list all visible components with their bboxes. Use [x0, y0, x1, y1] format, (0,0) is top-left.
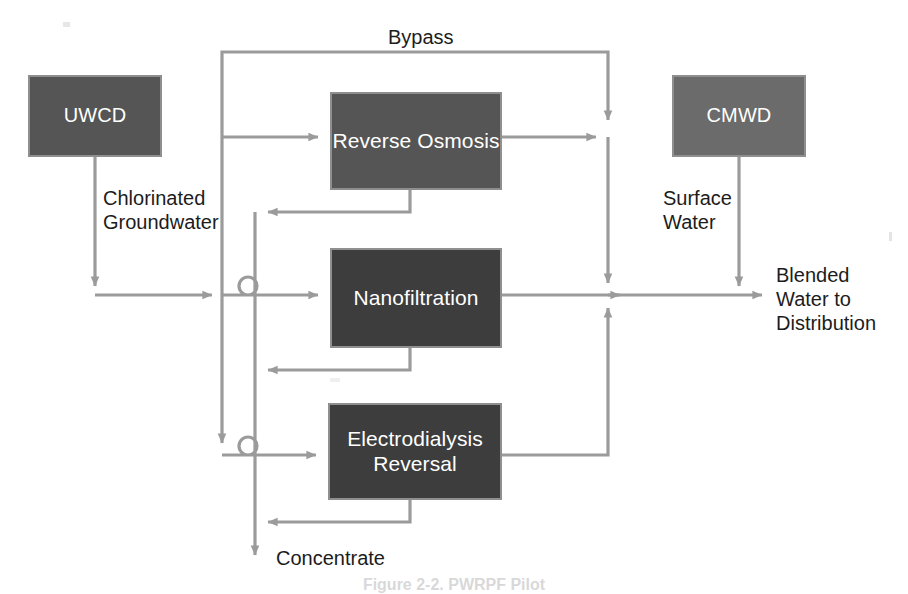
node-electrodialysis-reversal[interactable]: Electrodialysis Reversal: [328, 403, 502, 500]
wire-electrodialysis-reversal-product: [502, 308, 608, 455]
node-electrodialysis-reversal-label: Electrodialysis Reversal: [330, 427, 500, 476]
figure-caption: Figure 2-2. PWRPF Pilot: [214, 576, 694, 594]
wire-reverse-osmosis-concentrate: [268, 190, 410, 212]
label-surface-water: Surface Water: [663, 186, 732, 234]
node-cmwd[interactable]: CMWD: [672, 75, 806, 157]
node-uwcd-label: UWCD: [64, 104, 127, 127]
scan-speck: [330, 378, 340, 382]
node-reverse-osmosis-label: Reverse Osmosis: [332, 129, 499, 153]
node-nanofiltration[interactable]: Nanofiltration: [330, 248, 502, 348]
node-uwcd[interactable]: UWCD: [28, 75, 162, 157]
node-reverse-osmosis[interactable]: Reverse Osmosis: [330, 92, 502, 190]
label-concentrate: Concentrate: [276, 546, 385, 570]
label-blended-water-to-distribution: Blended Water to Distribution: [776, 263, 876, 335]
label-bypass: Bypass: [388, 25, 454, 49]
label-chlorinated-groundwater: Chlorinated Groundwater: [103, 186, 219, 234]
wire-nanofiltration-concentrate: [268, 348, 410, 370]
wire-feed-to-electrodialysis-reversal: [222, 437, 316, 455]
wire-feed-to-nanofiltration: [222, 277, 318, 295]
node-cmwd-label: CMWD: [707, 104, 772, 127]
wire-electrodialysis-reversal-concentrate: [268, 500, 410, 522]
scan-speck: [63, 22, 70, 27]
node-nanofiltration-label: Nanofiltration: [353, 286, 478, 310]
scan-speck: [889, 232, 892, 241]
